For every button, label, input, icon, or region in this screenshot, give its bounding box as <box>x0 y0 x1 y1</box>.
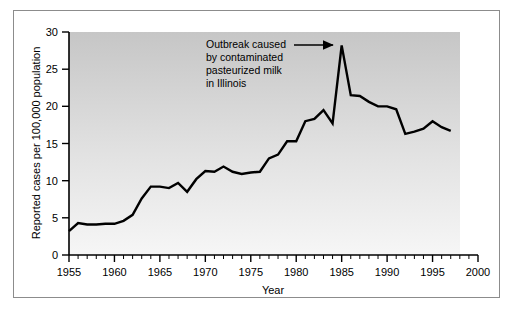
chart-figure: 0 5 10 15 20 25 30 1955 1960 1965 1970 1… <box>0 0 516 317</box>
annotation-line-2: by contaminated <box>206 51 283 63</box>
y-tick-label: 30 <box>46 26 58 38</box>
annotation-line-3: pasteurized milk <box>206 64 283 76</box>
annotation-line-4: in Illinois <box>206 77 246 89</box>
x-tick-label: 1985 <box>329 266 353 278</box>
y-tick-label: 20 <box>46 100 58 112</box>
x-tick-label: 1965 <box>148 266 172 278</box>
x-axis-major-ticks <box>69 255 478 262</box>
y-axis-title: Reported cases per 100,000 population <box>30 47 42 240</box>
y-tick-label: 0 <box>52 249 58 261</box>
annotation-line-1: Outbreak caused <box>206 38 286 50</box>
x-tick-label: 1990 <box>375 266 399 278</box>
x-tick-label: 1980 <box>284 266 308 278</box>
x-tick-label: 1995 <box>420 266 444 278</box>
x-tick-label: 1960 <box>102 266 126 278</box>
y-tick-label: 10 <box>46 175 58 187</box>
x-axis-title: Year <box>262 284 285 296</box>
y-axis-ticks <box>62 32 69 255</box>
y-tick-label: 25 <box>46 63 58 75</box>
y-tick-label: 5 <box>52 212 58 224</box>
y-tick-labels: 0 5 10 15 20 25 30 <box>46 26 58 261</box>
x-tick-labels: 1955 1960 1965 1970 1975 1980 1985 1990 … <box>57 266 490 278</box>
x-tick-label: 2000 <box>466 266 490 278</box>
x-tick-label: 1975 <box>239 266 263 278</box>
x-tick-label: 1955 <box>57 266 81 278</box>
line-chart: 0 5 10 15 20 25 30 1955 1960 1965 1970 1… <box>0 0 516 317</box>
y-tick-label: 15 <box>46 138 58 150</box>
x-tick-label: 1970 <box>193 266 217 278</box>
